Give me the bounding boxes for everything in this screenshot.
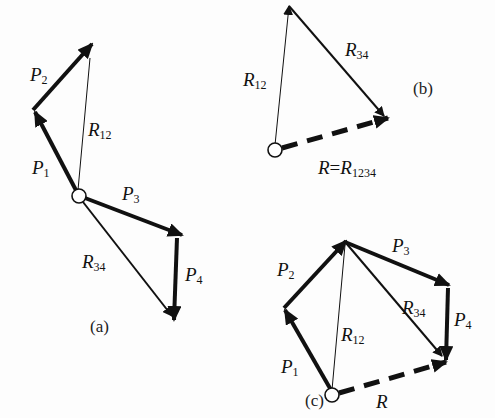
vector-r12-b	[275, 6, 289, 145]
label-symbol: P	[454, 309, 466, 330]
label-symbol: P	[30, 64, 42, 85]
label-subscript: 2	[289, 268, 295, 282]
label-p1-a: P1	[32, 158, 50, 179]
label-symbol: R	[88, 119, 100, 140]
label-symbol: P	[392, 235, 404, 256]
label-subscript: 4	[197, 273, 203, 287]
label-subscript: 1	[44, 166, 50, 180]
label-r34-a: R34	[82, 252, 106, 273]
vector-r12-c	[332, 245, 345, 390]
label-p3-c: P3	[392, 236, 410, 257]
label-subscript: 3	[404, 244, 410, 258]
vector-p1-a	[35, 112, 79, 196]
panel-a	[33, 44, 182, 320]
vector-addition-figure: P2 R12 P1 P3 R34 P4 (a) R34 R12 (b) R=R1…	[0, 0, 495, 418]
label-subscript: 12	[255, 78, 267, 92]
caption-a: (a)	[90, 318, 109, 335]
label-subscript: 4	[466, 318, 472, 332]
label-symbol: P	[277, 259, 289, 280]
label-p2-c: P2	[277, 260, 295, 281]
label-equals: =	[330, 157, 341, 178]
label-symbol: R	[82, 251, 94, 272]
label-resultant-c: R	[376, 392, 388, 411]
label-subscript: 1	[293, 365, 299, 379]
label-symbol: P	[185, 264, 197, 285]
label-subscript: 34	[357, 48, 369, 62]
label-symbol: R	[341, 324, 353, 345]
label-r12-b: R12	[243, 70, 267, 91]
label-r12-c: R12	[341, 325, 365, 346]
label-symbol: R	[340, 157, 352, 178]
label-r12-a: R12	[88, 120, 112, 141]
label-symbol: R	[402, 297, 414, 318]
origin-point-b	[268, 143, 282, 157]
origin-point-c	[325, 388, 339, 402]
label-r34-c: R34	[402, 298, 426, 319]
label-symbol: R	[345, 39, 357, 60]
label-subscript: 12	[353, 333, 365, 347]
caption-c: (c)	[305, 392, 324, 409]
vector-r34-b	[289, 6, 384, 116]
label-p2-a: P2	[30, 65, 48, 86]
vector-diagram-canvas	[0, 0, 495, 418]
vector-resultant-c	[339, 362, 446, 393]
panel-c	[284, 241, 449, 402]
vector-p4-c	[446, 288, 448, 360]
label-subscript: 34	[94, 260, 106, 274]
label-p1-c: P1	[281, 357, 299, 378]
origin-point-a	[72, 189, 86, 203]
label-p3-a: P3	[122, 184, 140, 205]
label-resultant-b: R=R1234	[318, 158, 376, 179]
label-subscript: 12	[100, 128, 112, 142]
label-subscript: 34	[414, 306, 426, 320]
label-symbol: R	[376, 391, 388, 412]
label-symbol: P	[122, 183, 134, 204]
vector-p4-a	[174, 238, 177, 320]
vector-resultant-b	[282, 118, 388, 148]
label-subscript: 1234	[352, 166, 376, 180]
label-symbol: P	[32, 157, 44, 178]
label-p4-c: P4	[454, 310, 472, 331]
caption-b: (b)	[413, 80, 433, 97]
label-subscript: 3	[134, 192, 140, 206]
label-symbol: R	[243, 69, 255, 90]
label-p4-a: P4	[185, 265, 203, 286]
label-symbol: P	[281, 356, 293, 377]
label-symbol: R	[318, 157, 330, 178]
panel-b	[268, 6, 388, 157]
label-r34-b: R34	[345, 40, 369, 61]
label-subscript: 2	[42, 73, 48, 87]
